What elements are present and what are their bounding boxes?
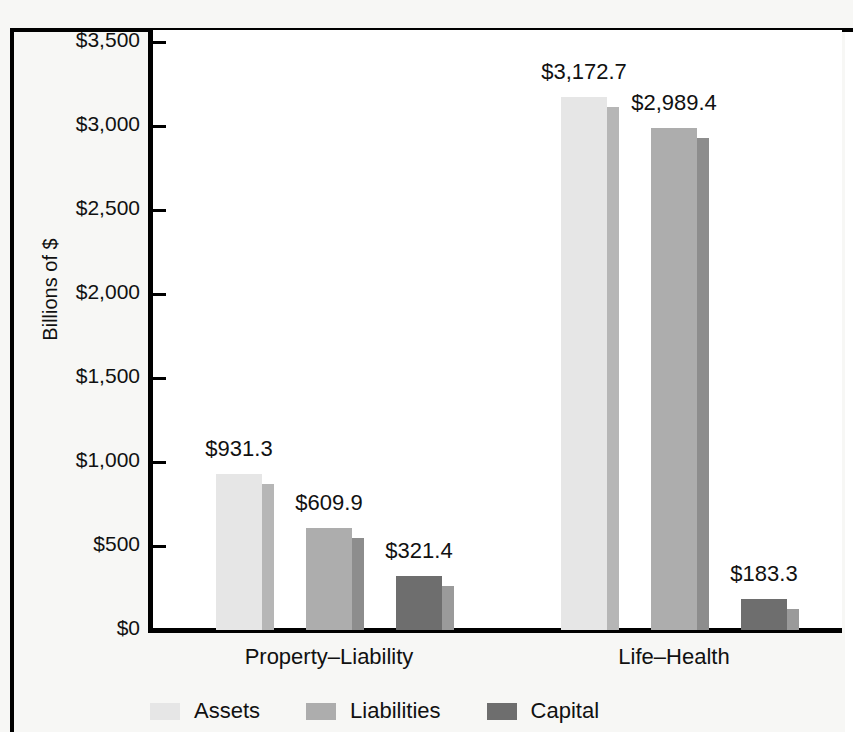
y-axis-tick (153, 293, 166, 296)
bar-value-label: $609.9 (261, 490, 397, 516)
bar-shadow (697, 138, 709, 630)
legend-swatch-icon (487, 703, 517, 720)
bar-liabilities-0 (306, 528, 352, 630)
y-axis-tick (153, 629, 166, 632)
y-axis-line (148, 30, 153, 632)
bar-value-label: $3,172.7 (516, 59, 652, 85)
legend-item-assets[interactable]: Assets (150, 698, 260, 724)
y-axis-tick (153, 125, 166, 128)
bar-assets-0 (216, 474, 262, 630)
bar-value-label: $931.3 (171, 436, 307, 462)
bar-shadow (442, 586, 454, 630)
legend-swatch-icon (150, 703, 180, 720)
y-axis-tick (153, 377, 166, 380)
legend-item-capital[interactable]: Capital (487, 698, 599, 724)
bar-shadow (607, 107, 619, 630)
legend-label: Assets (194, 698, 260, 724)
chart-legend: AssetsLiabilitiesCapital (150, 698, 599, 724)
frame-right-margin (845, 32, 853, 732)
bar-shadow (787, 609, 799, 630)
y-axis-tick-label: $3,000 (0, 112, 140, 136)
bar-value-label: $183.3 (696, 561, 832, 587)
chart-figure: Billions of $ $0$500$1,000$1,500$2,000$2… (0, 0, 853, 732)
y-axis-tick-label: $3,500 (0, 28, 140, 52)
bar-value-label: $2,989.4 (606, 90, 742, 116)
bar-face (306, 528, 352, 630)
bar-value-label: $321.4 (351, 538, 487, 564)
y-axis-tick-label: $1,500 (0, 364, 140, 388)
bar-capital-0 (396, 576, 442, 630)
bar-face (216, 474, 262, 630)
bar-face (561, 97, 607, 630)
x-axis-category-label: Life–Health (524, 644, 824, 670)
y-axis-tick-label: $2,000 (0, 280, 140, 304)
legend-swatch-icon (306, 703, 336, 720)
legend-label: Capital (531, 698, 599, 724)
bar-assets-1 (561, 97, 607, 630)
bar-face (741, 599, 787, 630)
bar-capital-1 (741, 599, 787, 630)
y-axis-tick-label: $1,000 (0, 448, 140, 472)
y-axis-tick (153, 545, 166, 548)
y-axis-tick (153, 209, 166, 212)
x-axis-category-label: Property–Liability (179, 644, 479, 670)
y-axis-tick-label: $2,500 (0, 196, 140, 220)
bar-face (396, 576, 442, 630)
y-axis-tick-label: $0 (0, 616, 140, 640)
y-axis-tick (153, 41, 166, 44)
legend-label: Liabilities (350, 698, 441, 724)
bar-liabilities-1 (651, 128, 697, 630)
bar-face (651, 128, 697, 630)
legend-item-liabilities[interactable]: Liabilities (306, 698, 441, 724)
y-axis-tick-label: $500 (0, 532, 140, 556)
y-axis-tick (153, 461, 166, 464)
